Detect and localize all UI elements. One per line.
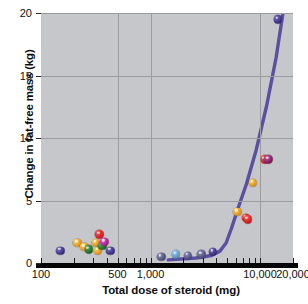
x-tick-mark — [41, 258, 42, 263]
x-tick-mark — [183, 258, 184, 263]
x-tick-mark — [126, 258, 127, 263]
x-gridline — [260, 13, 261, 263]
y-axis-ticks: 05101520 — [0, 0, 32, 304]
x-axis-title: Total dose of steroid (mg) — [36, 284, 306, 296]
y-tick-label: 5 — [2, 196, 32, 206]
y-tick-mark — [36, 263, 41, 264]
x-tick-mark — [146, 258, 147, 263]
x-tick-mark — [203, 258, 204, 263]
x-tick-label: 20,000 — [276, 268, 308, 280]
y-gridline — [41, 138, 293, 139]
y-tick-mark — [36, 201, 41, 202]
x-tick-mark — [140, 258, 141, 263]
x-tick-mark — [216, 258, 217, 263]
y-tick-mark — [36, 138, 41, 139]
x-tick-label: 100 — [32, 268, 50, 280]
y-tick-mark — [36, 76, 41, 77]
x-tick-mark — [134, 258, 135, 263]
x-tick-label: 500 — [108, 268, 126, 280]
x-tick-mark — [293, 258, 294, 263]
x-tick-label: 1,000 — [137, 268, 165, 280]
chart-figure: Change in fat-free mass (kg) 05101520 To… — [0, 0, 308, 304]
y-tick-label: 0 — [2, 258, 32, 268]
x-tick-mark — [260, 258, 261, 263]
x-gridline — [118, 13, 119, 263]
x-tick-mark — [255, 258, 256, 263]
y-tick-label: 20 — [2, 8, 32, 18]
x-tick-mark — [74, 258, 75, 263]
x-gridline — [151, 13, 152, 263]
y-tick-label: 15 — [2, 71, 32, 81]
x-tick-mark — [236, 258, 237, 263]
plot-area — [41, 13, 293, 263]
x-tick-mark — [243, 258, 244, 263]
x-tick-mark — [93, 258, 94, 263]
x-tick-mark — [107, 258, 108, 263]
x-tick-mark — [118, 258, 119, 263]
y-gridline — [41, 201, 293, 202]
y-gridline — [41, 76, 293, 77]
x-tick-label: 10,000 — [243, 268, 277, 280]
x-tick-mark — [151, 258, 152, 263]
y-tick-label: 10 — [2, 133, 32, 143]
x-tick-mark — [227, 258, 228, 263]
x-tick-mark — [249, 258, 250, 263]
y-gridline — [41, 13, 293, 14]
y-tick-mark — [36, 13, 41, 14]
